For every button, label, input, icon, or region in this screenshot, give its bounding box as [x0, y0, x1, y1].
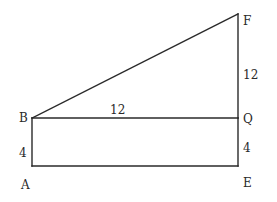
measure-bq: 12 [110, 103, 125, 117]
triangle-bfq [32, 14, 238, 118]
measure-ab: 4 [19, 146, 27, 160]
point-label-e: E [243, 176, 252, 190]
rectangle-abqe [32, 118, 238, 166]
segment-bf [32, 14, 238, 118]
measure-qf: 12 [243, 68, 258, 82]
geometry-diagram: B A F Q E 4 12 12 4 [0, 0, 277, 202]
point-label-q: Q [243, 112, 253, 126]
measure-qe: 4 [243, 141, 251, 155]
point-label-f: F [243, 14, 251, 28]
point-label-b: B [19, 111, 28, 125]
point-label-a: A [20, 178, 30, 192]
